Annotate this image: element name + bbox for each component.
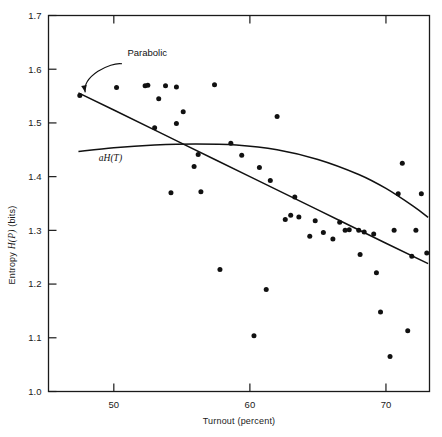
data-point <box>347 227 352 232</box>
x-tick-label: 50 <box>109 399 120 410</box>
y-axis-title-italic: H(P) <box>7 229 18 250</box>
parabolic-annotation: Parabolic <box>81 47 167 93</box>
parabolic-label: Parabolic <box>127 47 167 58</box>
data-point <box>239 153 244 158</box>
curve-aht <box>78 144 428 218</box>
data-point <box>321 230 326 235</box>
data-point <box>212 82 217 87</box>
data-point <box>413 228 418 233</box>
data-point <box>268 178 273 183</box>
data-point <box>264 287 269 292</box>
data-point <box>145 83 150 88</box>
data-point <box>163 83 168 88</box>
parabolic-arrowhead <box>81 85 87 92</box>
y-axis-ticks <box>49 16 57 392</box>
data-point <box>419 191 424 196</box>
y-tick-label: 1.4 <box>28 171 41 182</box>
data-point <box>388 354 393 359</box>
y-tick-label: 1.7 <box>28 10 41 21</box>
data-point <box>330 236 335 241</box>
y-tick-label: 1.5 <box>28 117 41 128</box>
y-tick-label: 1.0 <box>28 386 41 397</box>
scatter-plot: 1.01.11.21.31.41.51.61.7 506070 Paraboli… <box>0 0 442 437</box>
data-point <box>307 234 312 239</box>
data-point <box>198 189 203 194</box>
data-point <box>217 267 222 272</box>
data-point <box>358 252 363 257</box>
data-point <box>275 114 280 119</box>
data-point <box>378 310 383 315</box>
y-tick-label: 1.1 <box>28 332 41 343</box>
y-tick-label: 1.6 <box>28 64 41 75</box>
x-axis-ticks <box>114 16 386 392</box>
data-point <box>257 165 262 170</box>
data-point <box>374 270 379 275</box>
data-point <box>313 218 318 223</box>
x-axis-tick-labels: 506070 <box>109 399 392 410</box>
data-point <box>424 250 429 255</box>
svg-text:Entropy H(P) (bits): Entropy H(P) (bits) <box>7 206 18 285</box>
ah-t-label: aH(T) <box>99 153 122 164</box>
data-point <box>392 228 397 233</box>
data-point <box>174 84 179 89</box>
data-point <box>181 109 186 114</box>
fitted-curves <box>78 93 428 264</box>
x-tick-label: 70 <box>381 399 392 410</box>
data-point <box>174 121 179 126</box>
data-point <box>283 217 288 222</box>
y-tick-label: 1.3 <box>28 225 41 236</box>
plot-frame <box>49 16 430 392</box>
curve-parabolic <box>78 93 428 264</box>
data-point <box>168 190 173 195</box>
y-tick-label: 1.2 <box>28 278 41 289</box>
data-point <box>251 333 256 338</box>
data-point <box>156 96 161 101</box>
y-axis-title-post: (bits) <box>7 206 17 230</box>
data-points <box>77 82 429 359</box>
figure-container: 1.01.11.21.31.41.51.61.7 506070 Paraboli… <box>0 0 442 437</box>
data-point <box>288 213 293 218</box>
data-point <box>405 328 410 333</box>
y-axis-title: Entropy H(P) (bits) <box>7 206 18 285</box>
data-point <box>296 214 301 219</box>
y-axis-tick-labels: 1.01.11.21.31.41.51.61.7 <box>28 10 41 397</box>
data-point <box>114 85 119 90</box>
x-tick-label: 60 <box>245 399 256 410</box>
data-point <box>192 164 197 169</box>
x-axis-title: Turnout (percent) <box>203 416 276 426</box>
y-axis-title-pre: Entropy <box>7 249 17 284</box>
data-point <box>400 161 405 166</box>
